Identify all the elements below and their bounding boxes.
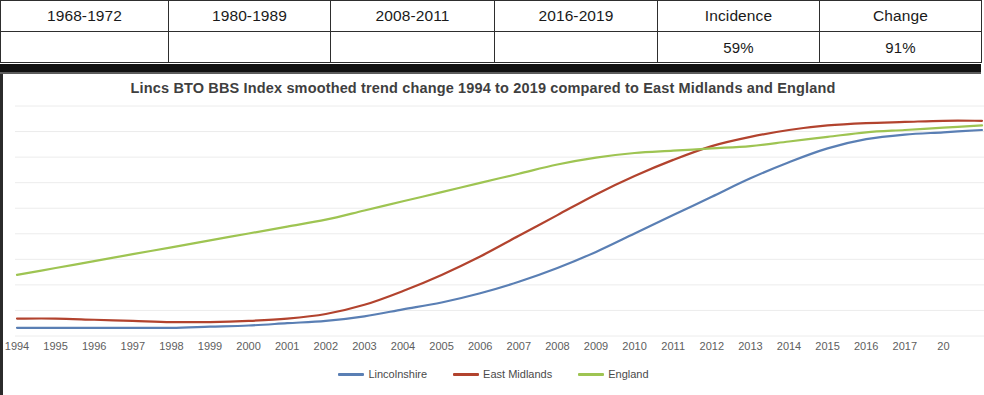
legend-label: Lincolnshire xyxy=(368,368,427,380)
summary-table: 1968-1972 1980-1989 2008-2011 2016-2019 … xyxy=(0,0,982,63)
chart-title: Lincs BTO BBS Index smoothed trend chang… xyxy=(3,80,963,96)
chart-gridlines xyxy=(15,106,984,336)
table-value-row: 59% 91% xyxy=(1,32,982,63)
series-line-england xyxy=(17,125,982,275)
section-divider-rule xyxy=(0,64,981,74)
cell-period-3-fill xyxy=(331,32,495,63)
column-header-period-3: 2008-2011 xyxy=(331,1,495,32)
cell-period-2-fill xyxy=(169,32,331,63)
x-axis-tick-label: 2016 xyxy=(854,340,878,352)
chart-legend: LincolnshireEast MidlandsEngland xyxy=(3,368,984,380)
x-axis-tick-label: 2009 xyxy=(584,340,608,352)
x-axis-tick-label: 2003 xyxy=(352,340,376,352)
x-axis-tick-label: 2007 xyxy=(507,340,531,352)
x-axis-tick-label: 2011 xyxy=(661,340,685,352)
x-axis-tick-label: 2017 xyxy=(893,340,917,352)
x-axis-tick-label: 1998 xyxy=(159,340,183,352)
x-axis-tick-label: 1999 xyxy=(198,340,222,352)
legend-label: East Midlands xyxy=(483,368,552,380)
x-axis-tick-label: 1997 xyxy=(121,340,145,352)
x-axis-tick-label: 1996 xyxy=(82,340,106,352)
chart-panel: Lincs BTO BBS Index smoothed trend chang… xyxy=(0,74,981,395)
legend-swatch-icon xyxy=(338,373,364,376)
x-axis-tick-label: 2005 xyxy=(429,340,453,352)
x-axis-tick-label: 20 xyxy=(937,340,949,352)
x-axis-tick-label: 2000 xyxy=(236,340,260,352)
legend-swatch-icon xyxy=(578,373,604,376)
cell-period-4-fill xyxy=(495,32,658,63)
chart-plot-area xyxy=(15,104,984,340)
x-axis-tick-label: 2006 xyxy=(468,340,492,352)
legend-swatch-icon xyxy=(453,373,479,376)
column-header-period-1: 1968-1972 xyxy=(1,1,169,32)
x-axis-tick-label: 2014 xyxy=(777,340,801,352)
chart-series-group xyxy=(17,121,982,328)
legend-item-east-midlands[interactable]: East Midlands xyxy=(453,368,552,380)
legend-label: England xyxy=(608,368,648,380)
column-header-incidence: Incidence xyxy=(658,1,820,32)
x-axis-tick-label: 2015 xyxy=(815,340,839,352)
table-header-row: 1968-1972 1980-1989 2008-2011 2016-2019 … xyxy=(1,1,982,32)
x-axis-tick-label: 2002 xyxy=(314,340,338,352)
column-header-period-4: 2016-2019 xyxy=(495,1,658,32)
summary-table-container: 1968-1972 1980-1989 2008-2011 2016-2019 … xyxy=(0,0,981,64)
x-axis-tick-label: 2013 xyxy=(738,340,762,352)
x-axis-tick-label: 1995 xyxy=(43,340,67,352)
series-line-east-midlands xyxy=(17,121,982,322)
legend-item-lincolnshire[interactable]: Lincolnshire xyxy=(338,368,427,380)
column-header-period-2: 1980-1989 xyxy=(169,1,331,32)
cell-period-1-fill xyxy=(1,32,169,63)
series-line-lincolnshire xyxy=(17,130,982,328)
column-header-change: Change xyxy=(820,1,982,32)
x-axis-tick-label: 2001 xyxy=(275,340,299,352)
x-axis-tick-label: 2008 xyxy=(545,340,569,352)
x-axis-tick-label: 2004 xyxy=(391,340,415,352)
cell-incidence-value: 59% xyxy=(658,32,820,63)
legend-item-england[interactable]: England xyxy=(578,368,648,380)
chart-x-axis: 1994199519961997199819992000200120022003… xyxy=(3,340,984,360)
x-axis-tick-label: 1994 xyxy=(5,340,29,352)
line-chart-svg xyxy=(15,104,984,340)
cell-change-value: 91% xyxy=(820,32,982,63)
x-axis-tick-label: 2010 xyxy=(622,340,646,352)
x-axis-tick-label: 2012 xyxy=(700,340,724,352)
